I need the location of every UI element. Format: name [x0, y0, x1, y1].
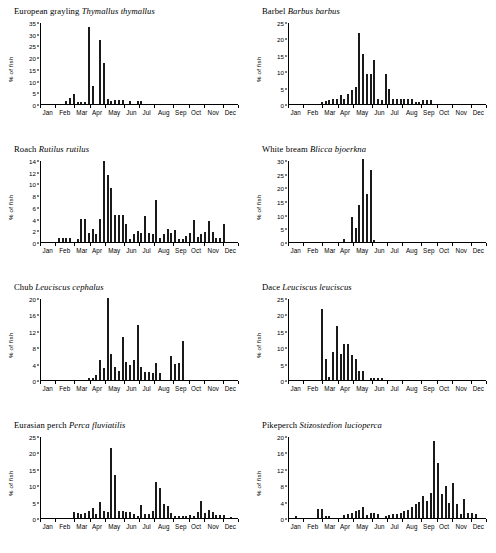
bar	[366, 515, 368, 518]
figure-root: European grayling Thymallus thymallus % …	[0, 0, 496, 553]
y-tick-label-7-16: 16	[277, 450, 284, 457]
x-tick-label-0-Oct: Oct	[191, 109, 201, 116]
bar	[133, 514, 135, 518]
bar	[317, 509, 319, 518]
x-tick-label-2-Sep: Sep	[175, 247, 187, 254]
x-tick-mark-3-Feb	[303, 243, 304, 246]
x-tick-mark-6-May	[105, 519, 106, 522]
bar	[426, 501, 428, 518]
x-tick-mark-2-end	[238, 243, 239, 246]
bar	[336, 326, 338, 380]
bar	[152, 511, 154, 518]
y-tick-label-3-0: 0	[280, 240, 284, 247]
chart-title-5: Dace Leuciscus leuciscus	[262, 282, 492, 293]
x-axis-7: JanFebMarAprMayJunJulAugSepOctNovDec	[288, 519, 486, 535]
chart-panel-2: Roach Rutilus rutilus % of fish 02468101…	[0, 138, 248, 276]
y-axis-label-0: % of fish	[7, 39, 17, 99]
x-tick-mark-3-May	[353, 243, 354, 246]
bar	[103, 368, 105, 380]
x-tick-label-1-Aug: Aug	[406, 109, 418, 116]
bar	[215, 515, 217, 518]
bar	[373, 513, 375, 518]
x-tick-label-7-Jul: Jul	[390, 523, 398, 530]
y-tick-label-0-35: 35	[29, 20, 36, 27]
chart-scientific-name-7: Stizostedion lucioperca	[300, 420, 382, 430]
bar	[328, 100, 330, 104]
bar	[178, 516, 180, 518]
bar	[370, 513, 372, 518]
chart-scientific-name-1: Barbus barbus	[288, 6, 340, 16]
x-tick-label-0-Jan: Jan	[42, 109, 52, 116]
bar	[103, 63, 105, 104]
y-axis-6: 0510152025	[17, 437, 39, 519]
y-tick-mark-5-0	[285, 381, 288, 382]
y-tick-mark-0-20	[37, 58, 40, 59]
bar	[295, 516, 297, 518]
y-tick-mark-6-25	[37, 437, 40, 438]
bar	[88, 233, 90, 242]
bar	[430, 493, 432, 518]
x-tick-mark-6-Jun	[124, 519, 125, 522]
y-tick-label-6-0: 0	[32, 516, 36, 523]
bar	[422, 496, 424, 518]
plot-6: % of fish 0510152025 JanFebMarAprMayJunJ…	[6, 433, 244, 541]
x-tick-label-7-Mar: Mar	[324, 523, 335, 530]
bar	[129, 512, 131, 518]
x-tick-label-1-Jan: Jan	[290, 109, 300, 116]
y-tick-label-0-0: 0	[32, 102, 36, 109]
y-tick-label-4-0: 0	[32, 378, 36, 385]
y-tick-label-0-20: 20	[29, 55, 36, 62]
y-tick-mark-6-0	[37, 519, 40, 520]
bar	[125, 362, 127, 380]
x-tick-label-3-Feb: Feb	[307, 247, 318, 254]
x-tick-label-3-May: May	[356, 247, 368, 254]
bar	[148, 233, 150, 242]
chart-common-name-5: Dace	[262, 282, 280, 292]
bar-series-5	[289, 299, 486, 380]
bar	[148, 372, 150, 380]
y-tick-mark-5-25	[285, 299, 288, 300]
x-tick-mark-5-May	[353, 381, 354, 384]
bar	[340, 354, 342, 380]
bar	[197, 237, 199, 242]
bar	[347, 514, 349, 518]
x-tick-mark-3-Jun	[372, 243, 373, 246]
x-tick-mark-1-Dec	[471, 105, 472, 108]
bar	[84, 219, 86, 242]
plot-area-0	[40, 23, 238, 105]
bar	[362, 54, 364, 104]
y-tick-mark-0-5	[37, 93, 40, 94]
x-tick-label-5-Apr: Apr	[340, 385, 350, 392]
y-tick-mark-0-15	[37, 69, 40, 70]
bar	[411, 99, 413, 104]
x-tick-label-4-Jun: Jun	[126, 385, 136, 392]
bar	[159, 488, 161, 518]
bar	[377, 99, 379, 104]
x-tick-label-4-Oct: Oct	[191, 385, 201, 392]
bar	[215, 238, 217, 242]
x-tick-label-3-Jan: Jan	[290, 247, 300, 254]
x-tick-mark-0-Apr	[90, 105, 91, 108]
chart-scientific-name-5: Leuciscus leuciscus	[282, 282, 351, 292]
x-tick-label-1-Mar: Mar	[324, 109, 335, 116]
x-tick-mark-4-Apr	[90, 381, 91, 384]
x-tick-label-0-Nov: Nov	[208, 109, 220, 116]
x-tick-mark-4-Dec	[223, 381, 224, 384]
y-tick-mark-7-12	[285, 469, 288, 470]
y-axis-4: 048121620	[17, 299, 39, 381]
x-tick-mark-5-Jul	[387, 381, 388, 384]
bar-series-0	[41, 23, 238, 104]
bar	[362, 507, 364, 518]
x-tick-label-0-Dec: Dec	[225, 109, 237, 116]
plot-area-2	[40, 161, 238, 243]
bar	[392, 99, 394, 104]
bar	[129, 365, 131, 380]
bar	[122, 215, 124, 242]
bar	[77, 102, 79, 104]
bar	[208, 221, 210, 242]
bar	[185, 516, 187, 518]
bar	[144, 216, 146, 242]
bar	[144, 514, 146, 518]
bar	[325, 101, 327, 104]
x-tick-label-4-Feb: Feb	[59, 385, 70, 392]
